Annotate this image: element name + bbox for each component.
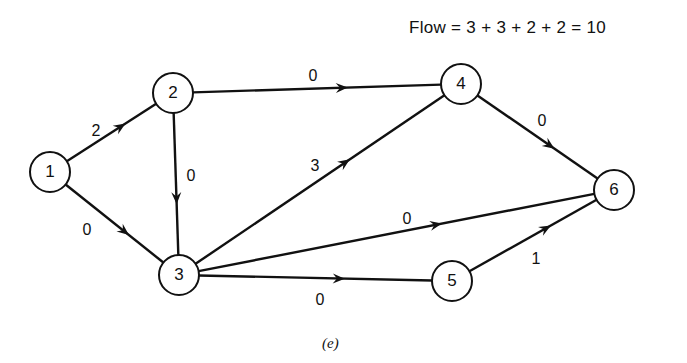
arrowhead-icon — [113, 124, 126, 135]
edge-1-3: 0 — [66, 184, 164, 262]
edge-flow-label: 0 — [316, 291, 325, 308]
network-flow-diagram: Flow = 3 + 3 + 2 + 2 = 10 20003000112345… — [0, 0, 687, 363]
node-1: 1 — [30, 152, 70, 192]
figure-caption: (e) — [322, 335, 339, 352]
node-4: 4 — [441, 64, 481, 104]
node-6: 6 — [594, 170, 634, 210]
edge-flow-label: 2 — [92, 122, 101, 139]
node-label: 5 — [447, 271, 456, 290]
edge-flow-label: 0 — [83, 221, 92, 238]
edge-flow-label: 0 — [309, 67, 318, 84]
edge-5-6: 1 — [469, 200, 596, 271]
edge-3-4: 3 — [196, 95, 445, 264]
arrowhead-icon — [542, 138, 555, 149]
flow-equation: Flow = 3 + 3 + 2 + 2 = 10 — [409, 18, 606, 38]
arrowhead-icon — [337, 159, 350, 170]
node-3: 3 — [159, 255, 199, 295]
edge-flow-label: 1 — [532, 250, 541, 267]
node-label: 6 — [609, 180, 618, 199]
edge-2-4: 0 — [193, 67, 441, 93]
node-label: 2 — [168, 83, 177, 102]
node-label: 3 — [174, 265, 183, 284]
node-label: 1 — [45, 162, 54, 181]
flow-graph: 200030001123456 — [0, 0, 687, 363]
edge-flow-label: 3 — [311, 157, 320, 174]
edge-flow-label: 0 — [187, 167, 196, 184]
edge-4-6: 0 — [477, 95, 597, 178]
node-label: 4 — [456, 74, 465, 93]
edge-1-2: 2 — [67, 104, 156, 161]
edge-flow-label: 0 — [403, 210, 412, 227]
edge-flow-label: 0 — [538, 112, 547, 129]
node-2: 2 — [153, 73, 193, 113]
edge-2-3: 0 — [171, 113, 195, 255]
edge-3-5: 0 — [199, 273, 432, 308]
node-5: 5 — [432, 261, 472, 301]
